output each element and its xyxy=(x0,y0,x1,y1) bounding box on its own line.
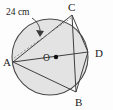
center-point-dot xyxy=(54,55,58,59)
vertex-label-d: D xyxy=(95,47,103,59)
measurement-label-24cm: 24 cm xyxy=(6,7,30,17)
vertex-label-c: C xyxy=(68,1,75,13)
center-label-o: O xyxy=(43,53,50,63)
circle-geometry-svg: 24 cm A B C D O xyxy=(0,0,113,110)
geometry-figure-container: 24 cm A B C D O xyxy=(0,0,113,110)
vertex-label-a: A xyxy=(3,56,11,68)
vertex-label-b: B xyxy=(75,96,82,108)
